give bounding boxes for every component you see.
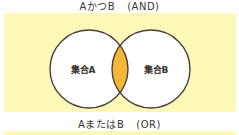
- set-b-label: 集合B: [143, 64, 169, 75]
- or-diagram-panel: [4, 131, 236, 135]
- or-heading-main: AまたはB: [78, 119, 124, 130]
- venn-diagram-and: 集合A 集合B: [0, 0, 239, 135]
- set-a-label: 集合A: [70, 64, 96, 75]
- or-heading-tag: (OR): [136, 119, 161, 130]
- or-heading: AまたはB(OR): [0, 118, 239, 131]
